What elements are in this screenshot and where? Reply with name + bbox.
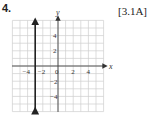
tick-labels: −4−202442−2−4 [23, 32, 91, 101]
y-axis-label: y [55, 8, 60, 17]
y-tick-label: −4 [50, 93, 58, 101]
x-tick-label: 2 [71, 68, 75, 76]
x-tick-label: −2 [38, 68, 46, 76]
x-tick-label: 0 [55, 68, 59, 76]
x-axis-label: x [108, 62, 113, 71]
y-tick-label: −2 [50, 78, 58, 86]
coordinate-plane: x y −4−202442−2−4 [0, 0, 157, 121]
x-tick-label: 4 [86, 68, 90, 76]
y-tick-label: 2 [53, 47, 57, 55]
x-tick-label: −4 [23, 68, 31, 76]
y-tick-label: 4 [53, 32, 57, 40]
